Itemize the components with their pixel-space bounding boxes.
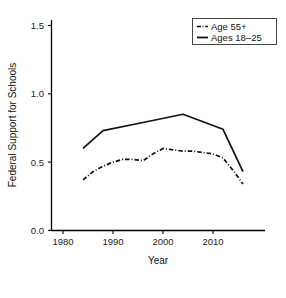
legend-label-ages-18-25: Ages 18–25 (211, 32, 262, 43)
line-chart-canvas: 1.5 1.0 0.5 0.0 1980 1990 2000 2010 Year… (0, 0, 286, 298)
y-tick-label-1_5: 1.5 (31, 20, 44, 31)
legend: Age 55+ Ages 18–25 (193, 19, 277, 45)
y-tick-label-0_0: 0.0 (31, 225, 44, 236)
x-axis-title: Year (148, 255, 169, 266)
x-tick-label-1980: 1980 (52, 236, 73, 247)
y-tick-label-0_5: 0.5 (31, 157, 44, 168)
series-line-age-55-plus (83, 148, 243, 184)
x-tick-label-2000: 2000 (152, 236, 173, 247)
x-tick-group: 1980 1990 2000 2010 (52, 231, 223, 248)
y-tick-label-1_0: 1.0 (31, 88, 44, 99)
x-tick-label-1990: 1990 (102, 236, 123, 247)
axes-group (51, 20, 265, 231)
legend-label-age-55-plus: Age 55+ (211, 21, 247, 32)
y-tick-group: 1.5 1.0 0.5 0.0 (31, 20, 52, 236)
y-axis-title: Federal Support for Schools (7, 63, 18, 188)
chart-figure: 1.5 1.0 0.5 0.0 1980 1990 2000 2010 Year… (0, 0, 286, 298)
series-group (83, 114, 243, 184)
series-line-ages-18-25 (83, 114, 243, 171)
x-tick-label-2010: 2010 (202, 236, 223, 247)
